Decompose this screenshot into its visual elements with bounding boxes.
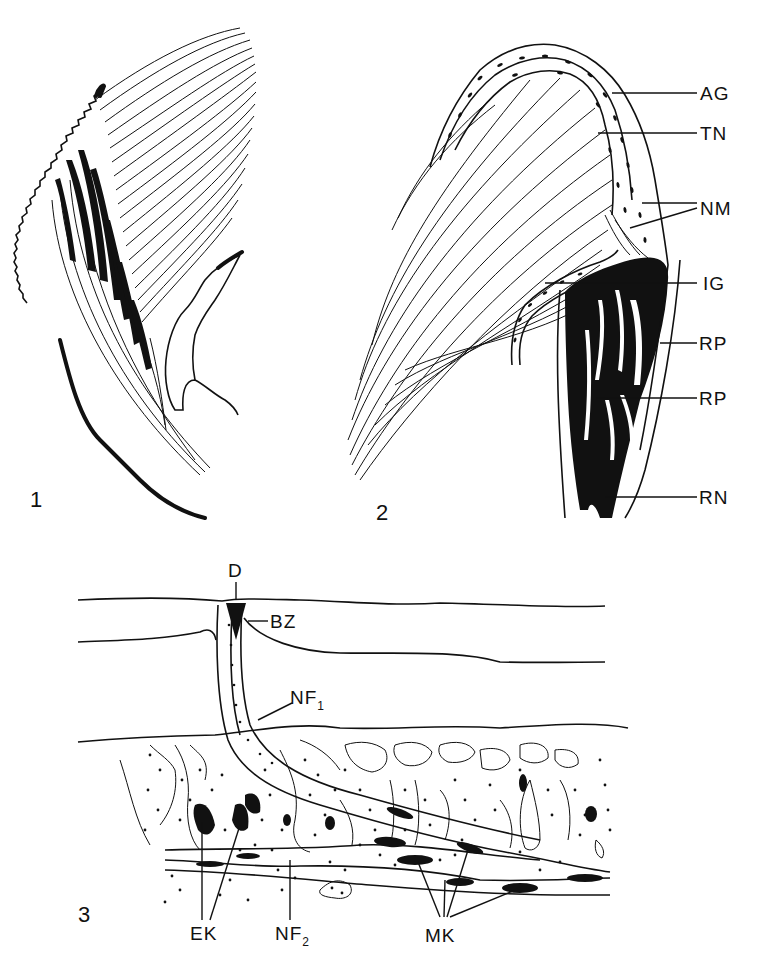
panel-1-number: 1 — [30, 487, 42, 512]
label-nf2: NF2 — [275, 923, 310, 949]
label-tn: TN — [700, 123, 727, 144]
leader-mk-2 — [444, 880, 445, 917]
label-nf1-text: NF — [290, 687, 317, 708]
label-nf2-subscript: 2 — [302, 935, 310, 949]
panel-3-number: 3 — [78, 902, 90, 927]
label-bz: BZ — [270, 611, 296, 632]
label-nf1: NF1 — [290, 687, 325, 713]
label-ig: IG — [703, 273, 725, 294]
leader-nf1 — [258, 703, 292, 720]
label-ek: EK — [190, 923, 217, 944]
label-d: D — [228, 560, 243, 581]
label-nm: NM — [700, 198, 732, 219]
label-nf1-subscript: 1 — [317, 699, 325, 713]
panel-1-drawing — [14, 28, 256, 518]
label-ag: AG — [700, 83, 729, 104]
figure-canvas: 1 — [0, 0, 760, 973]
panel-2-drawing — [348, 44, 680, 518]
leader-nm-2 — [630, 208, 697, 228]
label-rn: RN — [699, 487, 728, 508]
panel-2-number: 2 — [376, 500, 388, 525]
label-mk: MK — [425, 925, 456, 946]
label-rp-2: RP — [699, 388, 727, 409]
label-rp-1: RP — [699, 333, 727, 354]
label-nf2-text: NF — [275, 923, 302, 944]
panel-3-drawing — [78, 598, 628, 903]
